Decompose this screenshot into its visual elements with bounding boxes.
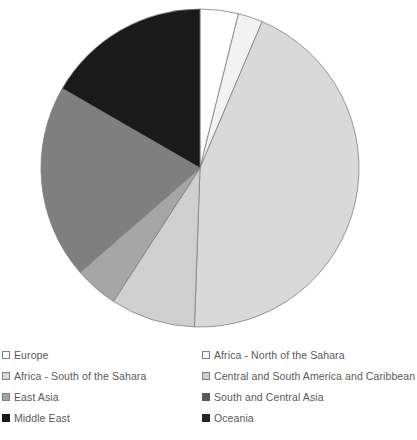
legend-item-label: Africa - North of the Sahara bbox=[214, 349, 345, 361]
legend-item-middle-east[interactable]: Middle East bbox=[0, 407, 200, 428]
legend-swatch-icon bbox=[202, 414, 210, 422]
legend-item-central-and-south-america-and-caribbean[interactable]: Central and South America and Caribbean bbox=[200, 365, 417, 386]
pie-svg bbox=[0, 0, 417, 340]
legend-swatch-icon bbox=[2, 351, 10, 359]
legend-swatch-icon bbox=[2, 372, 10, 380]
legend-item-oceania[interactable]: Oceania bbox=[200, 407, 417, 428]
legend-item-africa-south-of-the-sahara[interactable]: Africa - South of the Sahara bbox=[0, 365, 200, 386]
pie-slice-group bbox=[41, 9, 359, 327]
legend-swatch-icon bbox=[202, 351, 210, 359]
pie-plot-area bbox=[0, 0, 417, 340]
legend-item-label: East Asia bbox=[14, 391, 59, 403]
legend-swatch-icon bbox=[202, 393, 210, 401]
legend-item-label: Middle East bbox=[14, 412, 70, 424]
legend-item-south-and-central-asia[interactable]: South and Central Asia bbox=[200, 386, 417, 407]
legend-item-label: South and Central Asia bbox=[214, 391, 324, 403]
legend-item-africa-north-of-the-sahara[interactable]: Africa - North of the Sahara bbox=[200, 344, 417, 365]
legend-item-east-asia[interactable]: East Asia bbox=[0, 386, 200, 407]
legend-item-label: Central and South America and Caribbean bbox=[214, 370, 415, 382]
chart-legend: Europe Africa - North of the Sahara Afri… bbox=[0, 344, 417, 440]
legend-item-europe[interactable]: Europe bbox=[0, 344, 200, 365]
legend-item-label: Africa - South of the Sahara bbox=[14, 370, 146, 382]
legend-item-label: Europe bbox=[14, 349, 48, 361]
legend-swatch-icon bbox=[2, 414, 10, 422]
legend-item-label: Oceania bbox=[214, 412, 254, 424]
legend-swatch-icon bbox=[202, 372, 210, 380]
pie-chart-figure: Europe Africa - North of the Sahara Afri… bbox=[0, 0, 417, 440]
legend-swatch-icon bbox=[2, 393, 10, 401]
